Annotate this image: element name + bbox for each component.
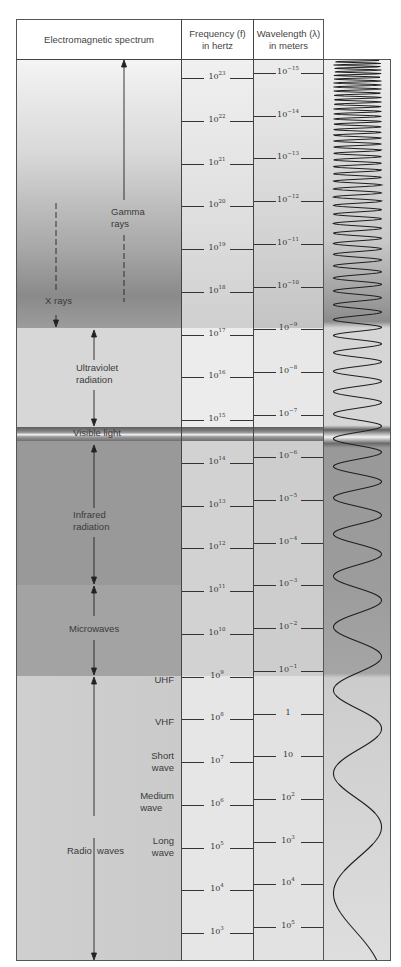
uv-line2: radiation <box>76 374 118 386</box>
tick-exponent: 4 <box>291 876 295 882</box>
tick-exponent: −6 <box>289 449 297 455</box>
tick-exponent: 19 <box>219 241 226 247</box>
wavelength-tick-label: 10−2 <box>268 620 308 631</box>
frequency-tick-label: 1011 <box>197 583 237 594</box>
tick-base: 10 <box>277 195 287 204</box>
tick-base: 10 <box>277 152 287 161</box>
tick-exponent: 17 <box>219 327 226 333</box>
short-line1: Short <box>151 750 174 762</box>
wavelength-tick-label: 10−4 <box>268 535 308 546</box>
tick-base: 10 <box>281 878 291 887</box>
frequency-tick-label: 1017 <box>197 327 237 338</box>
tick-base: 10 <box>208 500 218 509</box>
wavelength-tick-label: 10−3 <box>268 577 308 588</box>
wavelength-tick-label: 1 <box>268 706 308 717</box>
frequency-tick-label: 1019 <box>197 241 237 252</box>
wavelength-tick-label: 10−1 <box>268 663 308 674</box>
tick-base: 10 <box>208 329 218 338</box>
tick-base: 10 <box>279 323 289 332</box>
tick-base: 10 <box>279 451 289 460</box>
frequency-tick-label: 1021 <box>197 156 237 167</box>
tick-base: 10 <box>277 110 287 119</box>
microwave-line1: Microwaves <box>69 623 119 635</box>
tick-exponent: −14 <box>287 108 299 114</box>
wavelength-tick-label: 10−5 <box>268 492 308 503</box>
tick-exponent: −5 <box>289 492 297 498</box>
medium-line2: wave <box>140 802 174 814</box>
subband-vhf: VHF <box>155 716 174 728</box>
tick-exponent: −12 <box>287 193 299 199</box>
tick-base: 10 <box>279 579 289 588</box>
tick-base: 10 <box>210 756 220 765</box>
tick-exponent: 7 <box>220 754 224 760</box>
tick-base: 10 <box>279 537 289 546</box>
tick-base: 10 <box>279 622 289 631</box>
tick-base: 10 <box>210 713 220 722</box>
tick-exponent: −3 <box>289 577 297 583</box>
tick-exponent: 10 <box>219 626 226 632</box>
frequency-tick-label: 105 <box>197 840 237 851</box>
short-line2: wave <box>151 762 174 774</box>
tick-base: 10 <box>208 200 218 209</box>
frequency-tick-label: 109 <box>197 669 237 680</box>
frequency-tick-label: 1012 <box>197 540 237 551</box>
tick-base: 10 <box>277 281 287 290</box>
tick-exponent: 9 <box>220 669 224 675</box>
wavelength-tick-label: 10−10 <box>268 279 308 290</box>
wavelength-tick-label: 10 <box>268 748 308 759</box>
tick-exponent: 21 <box>219 156 226 162</box>
tick-base: 10 <box>208 542 218 551</box>
ir-line2: radiation <box>73 521 109 533</box>
tick-base: 10 <box>279 494 289 503</box>
tick-exponent: −15 <box>287 65 299 71</box>
tick-exponent: −2 <box>289 620 297 626</box>
tick-exponent: 16 <box>219 369 226 375</box>
frequency-tick-label: 1014 <box>197 455 237 466</box>
wavelength-tick-label: 103 <box>268 834 308 845</box>
frequency-tick-label: 1018 <box>197 284 237 295</box>
tick-exponent: 15 <box>219 412 226 418</box>
tick-base: 10 <box>208 243 218 252</box>
tick-base: 10 <box>277 238 287 247</box>
tick-exponent: −10 <box>287 279 299 285</box>
tick-base: 10 <box>208 286 218 295</box>
tick-exponent: −1 <box>289 663 297 669</box>
tick-exponent: 6 <box>220 797 224 803</box>
frequency-tick-label: 106 <box>197 797 237 808</box>
wavelength-tick-label: 10−9 <box>268 321 308 332</box>
tick-base: 10 <box>208 585 218 594</box>
tick-base: 10 <box>208 72 218 81</box>
tick-base: 10 <box>208 115 218 124</box>
region-label-radio-waves: Radio waves <box>67 821 124 869</box>
tick-exponent: −11 <box>287 236 299 242</box>
tick-exponent: −4 <box>289 535 297 541</box>
uv-line1: Ultraviolet <box>76 362 118 374</box>
wavelength-tick-label: 10−11 <box>268 236 308 247</box>
ir-line1: Infrared <box>73 509 109 521</box>
wavelength-tick-label: 10−15 <box>268 65 308 76</box>
region-label-gamma-rays: Gamma rays <box>111 206 145 230</box>
tick-exponent: 22 <box>219 113 226 119</box>
tick-base: 10 <box>281 793 291 802</box>
tick-base: 10 <box>208 457 218 466</box>
wavelength-tick-label: 10−8 <box>268 364 308 375</box>
wavelength-tick-label: 10−14 <box>268 108 308 119</box>
region-arrows <box>0 0 401 967</box>
tick-base: 1 <box>285 708 290 717</box>
subband-medium-wave: Medium wave <box>140 790 174 814</box>
frequency-tick-label: 1016 <box>197 369 237 380</box>
wavelength-tick-label: 10−13 <box>268 150 308 161</box>
frequency-tick-label: 1013 <box>197 498 237 509</box>
frequency-tick-label: 104 <box>197 882 237 893</box>
uhf-line1: UHF <box>154 674 174 686</box>
tick-exponent: 5 <box>291 919 295 925</box>
frequency-tick-label: 107 <box>197 754 237 765</box>
radio-line1: Radio waves <box>67 845 124 857</box>
vhf-line1: VHF <box>155 716 174 728</box>
tick-base: 10 <box>279 409 289 418</box>
tick-exponent: 23 <box>219 70 226 76</box>
tick-exponent: −7 <box>289 407 297 413</box>
tick-base: 10 <box>281 921 291 930</box>
region-label-x-rays: X rays <box>45 295 72 307</box>
tick-exponent: 18 <box>219 284 226 290</box>
